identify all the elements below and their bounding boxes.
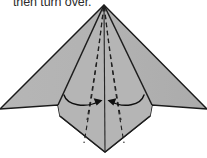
paper-airplane-diagram xyxy=(0,0,207,158)
origami-figure-panel: then turn over. xyxy=(0,0,207,158)
instruction-caption: then turn over. xyxy=(13,0,91,9)
